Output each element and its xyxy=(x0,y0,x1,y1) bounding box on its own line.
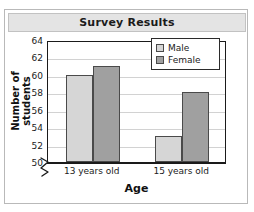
y-axis-tick-label: 54 xyxy=(25,124,43,133)
legend-label: Female xyxy=(168,56,201,65)
x-axis-category-label: 13 years old xyxy=(47,166,137,176)
chart-legend: MaleFemale xyxy=(151,38,220,70)
legend-label: Male xyxy=(168,44,189,53)
chart-title: Survey Results xyxy=(79,16,175,29)
x-axis-baseline xyxy=(47,162,226,164)
y-axis-tick-label: 64 xyxy=(25,37,43,46)
x-axis-title: Age xyxy=(47,182,226,195)
legend-swatch-icon xyxy=(156,56,164,64)
legend-item-male[interactable]: Male xyxy=(156,42,215,54)
legend-swatch-icon xyxy=(156,44,164,52)
bar-male-0 xyxy=(66,75,93,162)
chart-card: Survey Results Number of students 505254… xyxy=(4,9,248,204)
chart-body: Number of students 5052545658606264 Male… xyxy=(5,32,249,203)
bar-male-1 xyxy=(155,136,182,162)
y-axis-tick-label: 60 xyxy=(25,71,43,80)
bar-female-1 xyxy=(182,92,209,162)
y-axis-tick-label: 56 xyxy=(25,106,43,115)
legend-item-female[interactable]: Female xyxy=(156,54,215,66)
x-axis-category-label: 15 years old xyxy=(136,166,226,176)
chart-title-bar: Survey Results xyxy=(8,13,246,32)
bar-female-0 xyxy=(93,66,120,162)
y-axis-tick-label: 62 xyxy=(25,54,43,63)
y-axis-tick-label: 52 xyxy=(25,141,43,150)
y-axis-tick-label: 58 xyxy=(25,89,43,98)
y-axis-tick-labels: 5052545658606264 xyxy=(25,41,43,163)
